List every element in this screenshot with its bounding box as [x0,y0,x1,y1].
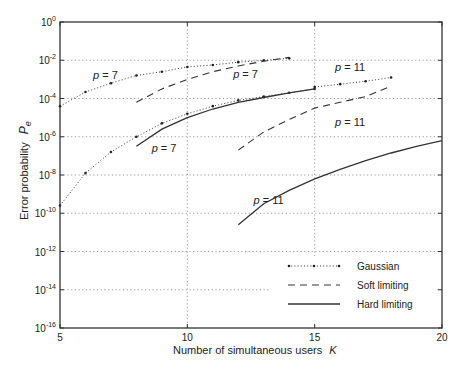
series-layer [59,57,442,225]
data-marker [110,151,113,154]
curve-label: p = 7 [92,69,118,81]
data-marker [339,83,342,86]
curve-labels: p = 7p = 7p = 7p = 11p = 11p = 11 [92,61,365,206]
legend-label: Hard limiting [357,299,413,310]
data-marker [84,172,87,175]
legend-marker [313,265,316,268]
data-marker [364,80,367,83]
data-marker [161,122,164,125]
y-tick-label: 10-10 [35,206,56,219]
data-marker [390,76,393,79]
data-marker [237,99,240,102]
curve-label: p = 7 [232,68,258,80]
x-tick-label: 20 [436,332,448,343]
x-tick-label: 10 [182,332,194,343]
legend-label: Gaussian [357,261,399,272]
data-marker [212,105,215,108]
series-line [60,89,315,206]
legend-label: Soft limiting [357,280,409,291]
data-marker [135,74,138,77]
data-marker [212,64,215,67]
y-tick-label: 100 [41,15,56,28]
y-tick-label: 10-8 [39,168,56,181]
y-tick-label: 10-16 [35,321,56,334]
data-marker [186,66,189,69]
curve-label: p = 7 [151,142,177,154]
legend-marker [338,265,341,268]
data-marker [135,135,138,138]
curve-label: p = 11 [253,194,284,206]
data-marker [84,91,87,94]
legend-marker [288,265,291,268]
svg-text:Error probabilityPe: Error probabilityPe [17,121,33,220]
legend: GaussianSoft limitingHard limiting [270,256,435,324]
error-probability-chart: 510152010010-210-410-610-810-1010-1210-1… [0,0,462,368]
series-line [315,78,391,88]
data-marker [313,86,316,89]
y-tick-label: 10-6 [39,130,56,143]
curve-label: p = 11 [334,61,365,73]
y-tick-label: 10-4 [39,92,56,105]
data-marker [186,113,189,116]
curve-label: p = 11 [334,116,365,128]
series-line [136,89,314,146]
x-tick-label: 5 [57,332,63,343]
x-axis-label: Number of simultaneous usersK [173,344,337,356]
data-marker [237,61,240,64]
y-tick-label: 10-2 [39,53,56,66]
y-tick-label: 10-12 [35,245,56,258]
y-tick-label: 10-14 [35,283,56,296]
series-line [238,141,442,225]
data-marker [161,70,164,73]
x-tick-label: 15 [309,332,321,343]
y-axis-label: Error probabilityPe [17,121,33,220]
data-marker [110,82,113,85]
